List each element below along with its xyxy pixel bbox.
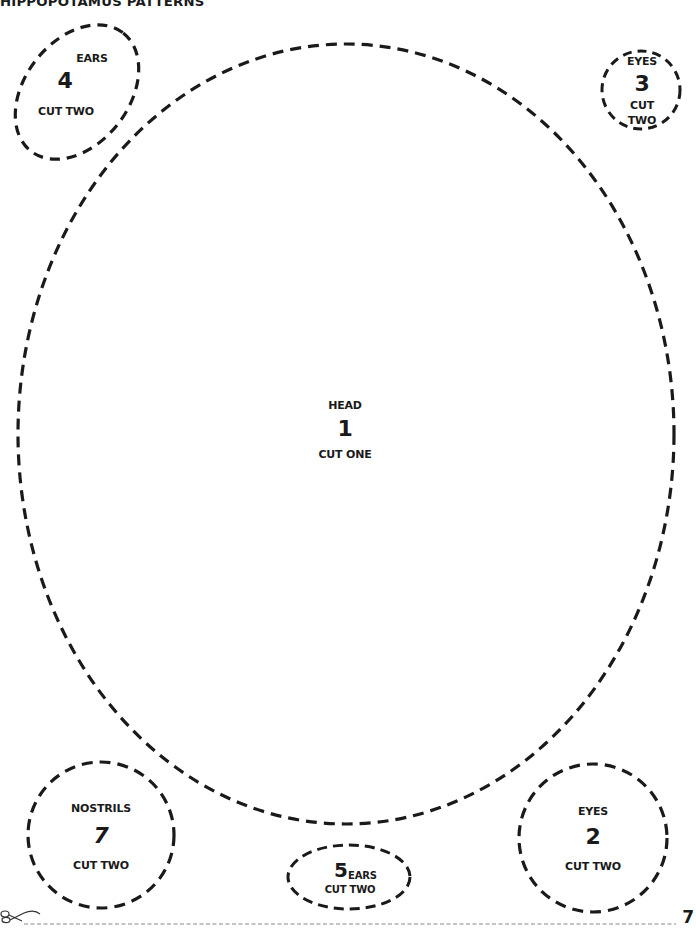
eye-2-instruction: CUT TWO <box>565 861 621 872</box>
ear-5-instruction: CUT TWO <box>325 885 376 895</box>
ear-4-pattern-outline <box>0 1 164 183</box>
eye-3-number: 3 <box>634 73 649 95</box>
eye-2-label: EYES <box>578 806 608 817</box>
ear-5-label: EARS <box>348 871 377 881</box>
nostril-7-number: 7 <box>93 825 108 847</box>
ear-4-label: EARS <box>76 53 108 64</box>
eye-3-instruction-line1: CUT <box>630 100 654 111</box>
nostril-7-label: NOSTRILS <box>71 803 131 814</box>
head-label: HEAD <box>328 400 362 411</box>
ear-4-number: 4 <box>57 70 72 92</box>
eye-3-instruction-line2: TWO <box>628 115 656 126</box>
page-number: 7 <box>682 909 694 926</box>
ear-4-instruction: CUT TWO <box>38 106 94 117</box>
head-number: 1 <box>337 418 352 440</box>
nostril-7-instruction: CUT TWO <box>73 860 129 871</box>
pattern-shapes <box>0 0 696 928</box>
eye-2-number: 2 <box>585 826 600 848</box>
scissors-icon <box>1 911 40 923</box>
head-instruction: CUT ONE <box>318 449 371 460</box>
eye-3-label: EYES <box>627 56 657 67</box>
ear-5-number: 5 <box>334 860 348 880</box>
